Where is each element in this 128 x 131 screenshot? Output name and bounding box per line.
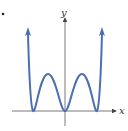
y-axis-label: y bbox=[60, 7, 67, 18]
graph: y x bbox=[0, 0, 128, 131]
x-axis-label: x bbox=[119, 105, 125, 116]
list-bullet bbox=[2, 13, 5, 16]
